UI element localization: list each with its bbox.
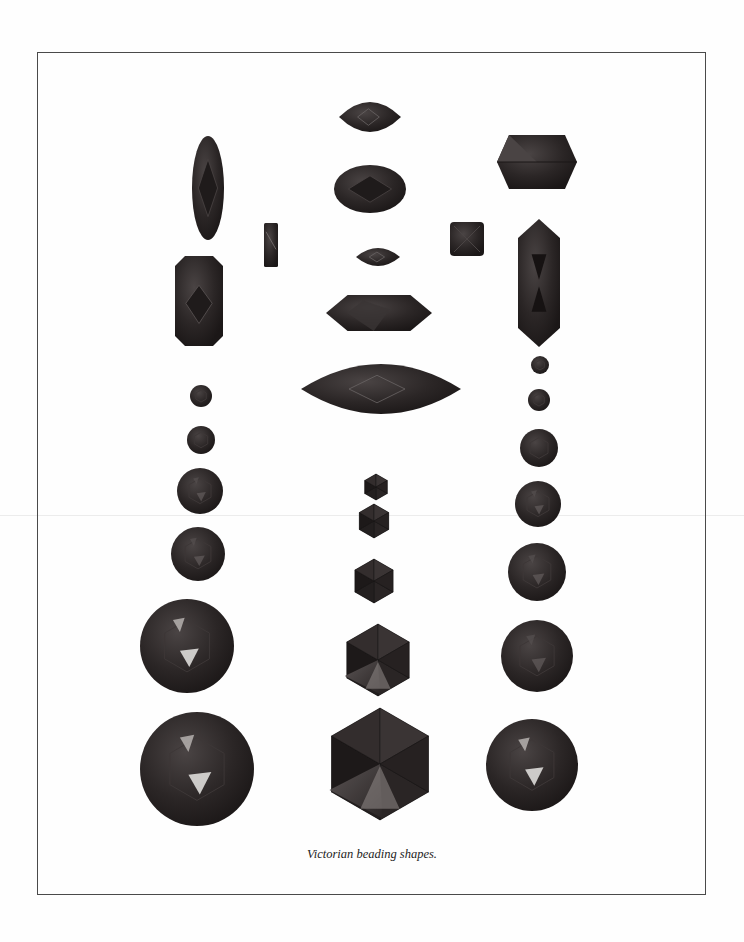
bead-center-hex-4: [345, 624, 409, 696]
bead-right-circle-4: [515, 481, 561, 527]
bead-right-circle-2: [528, 389, 550, 411]
bead-center-hex-2: [359, 504, 388, 538]
document-page: Victorian beading shapes.: [0, 0, 744, 942]
bead-left-circle-1: [190, 385, 212, 407]
bead-left-small-rect: [264, 223, 278, 267]
bead-right-circle-1: [531, 356, 549, 374]
bead-left-circle-5: [140, 599, 234, 693]
bead-left-circle-2: [187, 426, 215, 454]
bead-right-circle-5: [508, 543, 566, 601]
bead-center-hex-1: [365, 474, 388, 500]
bead-center-hex-3: [355, 559, 393, 603]
bead-left-rect: [175, 256, 223, 346]
bead-right-circle-3: [520, 429, 558, 467]
bead-center-navette-large: [301, 364, 461, 414]
bead-right-hexwide: [497, 135, 577, 189]
bead-center-oval: [334, 165, 406, 213]
bead-center-navette-tiny: [356, 248, 400, 266]
bead-center-hex-5: [330, 708, 429, 820]
bead-left-circle-6: [140, 712, 254, 826]
bead-right-square: [450, 222, 484, 256]
bead-left-circle-4: [171, 527, 225, 581]
figure-caption: Victorian beading shapes.: [0, 847, 744, 862]
bead-right-circle-6: [501, 620, 573, 692]
bead-center-navette-small: [339, 102, 401, 132]
beads-illustration: [0, 0, 744, 942]
bead-left-circle-3: [177, 468, 223, 514]
bead-right-circle-7: [486, 719, 578, 811]
bead-left-oval-long: [192, 136, 224, 240]
bead-center-hexlong: [326, 295, 432, 331]
bead-right-long: [518, 219, 560, 347]
